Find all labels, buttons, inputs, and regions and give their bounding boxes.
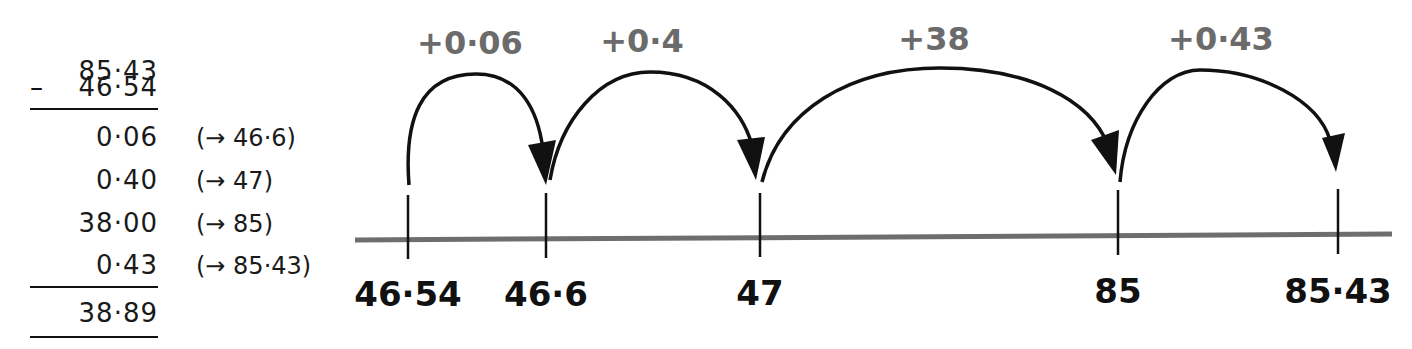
number-line [355,234,1392,240]
jump-label: +0·06 [417,24,523,62]
ticks [408,189,1338,259]
tick-label: 85 [1094,271,1141,311]
jump-label: +38 [898,20,969,58]
jump-arc [762,68,1108,182]
tick-label: 46·6 [504,274,588,314]
tick-label: 85·43 [1284,271,1392,311]
tick-label: 46·54 [354,274,462,314]
tick-label: 47 [736,273,783,313]
arrowhead-icon [1091,130,1119,175]
jump-arc [408,74,543,185]
arrowhead-icon [737,137,765,180]
jump-arc [550,72,752,180]
arrowheads [528,130,1345,185]
jump-label: +0·4 [600,22,684,60]
jump-arc [1120,70,1330,182]
arrowhead-icon [1322,133,1345,172]
number-line-diagram: +0·06 +0·4 +38 +0·43 46·54 46·6 47 85 85… [0,0,1412,349]
jump-label: +0·43 [1168,20,1274,58]
